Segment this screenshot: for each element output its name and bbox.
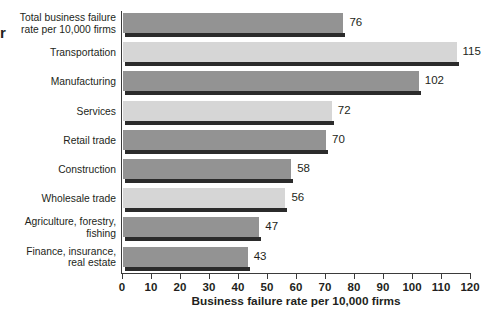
x-tick: [209, 274, 210, 279]
bar-shadow: [125, 267, 250, 271]
bar-row: Total business failure rate per 10,000 f…: [0, 12, 498, 41]
category-label: Total business failure rate per 10,000 f…: [0, 12, 116, 35]
category-label: Transportation: [0, 41, 116, 59]
bar-shadow: [125, 62, 459, 66]
bar-value-label: 70: [332, 133, 345, 145]
bar-value-label: 102: [425, 74, 444, 86]
bar-row: Retail trade70: [0, 129, 498, 158]
bar-row: Finance, insurance, real estate43: [0, 246, 498, 275]
bar: [123, 130, 326, 150]
x-tick: [325, 274, 326, 279]
category-label: Retail trade: [0, 129, 116, 147]
bar-shadow: [125, 237, 261, 241]
bar-container: 115: [123, 42, 457, 62]
category-label: Finance, insurance, real estate: [0, 246, 116, 269]
x-tick: [296, 274, 297, 279]
x-tick: [122, 274, 123, 279]
x-axis-title: Business failure rate per 10,000 firms: [121, 294, 471, 308]
bar: [123, 188, 285, 208]
bar-container: 70: [123, 130, 326, 150]
x-tick: [354, 274, 355, 279]
bar-container: 56: [123, 188, 285, 208]
bar-value-label: 56: [291, 191, 304, 203]
x-tick: [180, 274, 181, 279]
x-tick: [412, 274, 413, 279]
bar-shadow: [125, 121, 334, 125]
bar: [123, 13, 343, 33]
bar: [123, 101, 332, 121]
bar: [123, 42, 457, 62]
bar-container: 43: [123, 247, 248, 267]
bar-shadow: [125, 33, 345, 37]
x-tick: [470, 274, 471, 279]
category-label: Construction: [0, 158, 116, 176]
category-label: Manufacturing: [0, 70, 116, 88]
x-tick: [441, 274, 442, 279]
x-tick: [151, 274, 152, 279]
bar-value-label: 115: [463, 45, 481, 57]
bar-row: Construction58: [0, 158, 498, 187]
bar-value-label: 58: [297, 162, 310, 174]
bar-value-label: 76: [349, 16, 362, 28]
bar-chart: Total business failure rate per 10,000 f…: [0, 0, 498, 321]
bar-container: 47: [123, 217, 259, 237]
x-tick: [383, 274, 384, 279]
bar: [123, 159, 291, 179]
bar-value-label: 47: [265, 220, 278, 232]
bar: [123, 247, 248, 267]
x-tick: [238, 274, 239, 279]
bar-row: Wholesale trade56: [0, 187, 498, 216]
bar: [123, 217, 259, 237]
bar-shadow: [125, 150, 328, 154]
bar-row: Transportation115: [0, 41, 498, 70]
bar-shadow: [125, 179, 293, 183]
bar-container: 76: [123, 13, 343, 33]
category-label: Services: [0, 100, 116, 118]
x-tick: [267, 274, 268, 279]
bar-container: 58: [123, 159, 291, 179]
bar-container: 72: [123, 101, 332, 121]
bar-shadow: [125, 91, 421, 95]
category-label: Agriculture, forestry, fishing: [0, 216, 116, 239]
bar-row: Services72: [0, 100, 498, 129]
bar-row: Agriculture, forestry, fishing47: [0, 216, 498, 245]
bar-value-label: 72: [338, 104, 351, 116]
category-label: Wholesale trade: [0, 187, 116, 205]
bar: [123, 71, 419, 91]
bar-shadow: [125, 208, 287, 212]
x-tick-label: 120: [450, 280, 490, 294]
bar-row: Manufacturing102: [0, 70, 498, 99]
bar-container: 102: [123, 71, 419, 91]
bar-value-label: 43: [254, 250, 267, 262]
